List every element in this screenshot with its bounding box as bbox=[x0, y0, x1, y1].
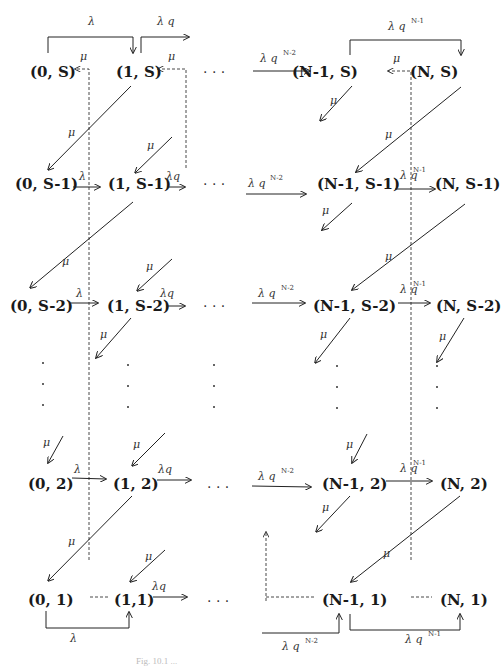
svg-text:μ: μ bbox=[168, 50, 175, 63]
edge-mu-12-01 bbox=[48, 496, 132, 581]
ellipsis-row-2: · · · bbox=[207, 479, 229, 495]
svg-text:μ: μ bbox=[68, 535, 75, 548]
svg-text:λ q: λ q bbox=[259, 52, 278, 65]
svg-text:μ: μ bbox=[146, 260, 153, 273]
svg-text:μ: μ bbox=[43, 436, 50, 449]
svg-text:μ: μ bbox=[147, 139, 154, 152]
svg-text:λq: λq bbox=[165, 170, 180, 183]
svg-text:N-2: N-2 bbox=[305, 637, 318, 645]
svg-text:μ: μ bbox=[322, 204, 329, 217]
svg-text:N-2: N-2 bbox=[281, 284, 294, 292]
svg-text:λ: λ bbox=[78, 170, 86, 183]
svg-text:N-1: N-1 bbox=[411, 17, 424, 25]
node-N-2: (N, 2) bbox=[440, 475, 488, 493]
node-0-S: (0, S) bbox=[30, 63, 76, 81]
svg-text:N-1: N-1 bbox=[428, 630, 441, 638]
state-transition-diagram: (0, S) (1, S) (N-1, S) (N, S) (0, S-1) (… bbox=[0, 0, 503, 668]
svg-text:μ: μ bbox=[100, 328, 107, 341]
svg-text:μ: μ bbox=[439, 330, 446, 343]
svg-text:μ: μ bbox=[385, 128, 392, 141]
node-N-1: (N, 1) bbox=[440, 591, 488, 609]
node-N-S: (N, S) bbox=[410, 63, 458, 81]
edge-mu-1S-0S1 bbox=[48, 86, 131, 170]
svg-text:μ: μ bbox=[346, 438, 353, 451]
svg-text:N-1: N-1 bbox=[413, 166, 426, 174]
svg-text:λ: λ bbox=[73, 463, 81, 476]
svg-text:μ: μ bbox=[133, 438, 140, 451]
svg-text:μ: μ bbox=[320, 328, 327, 341]
svg-text:λ q: λ q bbox=[247, 177, 266, 190]
svg-text:μ: μ bbox=[322, 501, 329, 514]
node-0-S-1: (0, S-1) bbox=[15, 175, 78, 193]
svg-text:μ: μ bbox=[385, 250, 392, 263]
svg-text:λ: λ bbox=[75, 287, 83, 300]
node-0-2: (0, 2) bbox=[28, 475, 74, 493]
node-N-1-2: (N-1, 2) bbox=[322, 475, 387, 493]
svg-text:μ: μ bbox=[68, 126, 75, 139]
svg-text:μ: μ bbox=[330, 94, 337, 107]
svg-text:λ: λ bbox=[87, 15, 95, 28]
ellipsis-row-S: · · · bbox=[203, 64, 225, 80]
edge-mu-NS-N1S1 bbox=[356, 87, 461, 172]
node-N-S-1: (N, S-1) bbox=[435, 175, 500, 193]
node-N-1-1: (N-1, 1) bbox=[322, 591, 387, 609]
svg-text:N-2: N-2 bbox=[281, 467, 294, 475]
node-N-1-S-2: (N-1, S-2) bbox=[313, 297, 396, 315]
svg-text:μ: μ bbox=[145, 550, 152, 563]
node-N-S-2: (N, S-2) bbox=[436, 297, 501, 315]
row-2-edges: μ μ λ λq λ q N-2 μ λ q N-1 μ bbox=[43, 433, 432, 601]
edge-mu-N2-N11 bbox=[351, 496, 460, 582]
vertical-dots bbox=[42, 362, 438, 409]
svg-text:N-2: N-2 bbox=[270, 174, 283, 182]
ellipsis-row-S-2: · · · bbox=[203, 298, 225, 314]
svg-text:N-2: N-2 bbox=[283, 49, 296, 57]
svg-text:λq: λq bbox=[159, 287, 174, 300]
svg-text:μ: μ bbox=[62, 255, 69, 268]
row-1-edges: μ λ λq λ q N-2 λ q N-1 bbox=[46, 550, 460, 653]
node-N-1-S: (N-1, S) bbox=[292, 63, 358, 81]
node-1-1: (1,1) bbox=[114, 591, 154, 609]
svg-text:λ q: λ q bbox=[156, 15, 175, 28]
node-1-S-1: (1, S-1) bbox=[108, 175, 171, 193]
svg-text:N-1: N-1 bbox=[413, 459, 426, 467]
node-0-S-2: (0, S-2) bbox=[10, 297, 73, 315]
svg-text:λq: λq bbox=[151, 580, 166, 593]
ellipsis-row-S-1: · · · bbox=[203, 176, 225, 192]
svg-text:λ: λ bbox=[69, 632, 77, 645]
ellipsis-row-1: · · · bbox=[207, 593, 229, 609]
svg-text:μ: μ bbox=[80, 50, 87, 63]
nodes: (0, S) (1, S) (N-1, S) (N, S) (0, S-1) (… bbox=[10, 63, 501, 609]
svg-text:λ q: λ q bbox=[257, 470, 276, 483]
svg-text:λ q: λ q bbox=[404, 633, 423, 646]
node-1-2: (1, 2) bbox=[113, 475, 159, 493]
svg-text:μ: μ bbox=[383, 547, 390, 560]
node-1-S: (1, S) bbox=[116, 63, 162, 81]
edge-mu-NS1-N1S2 bbox=[352, 204, 465, 290]
edge-mu-1S1-0S2 bbox=[30, 202, 133, 288]
ellipses: · · · · · · · · · · · · · · · bbox=[203, 64, 229, 609]
svg-text:λ q: λ q bbox=[257, 287, 276, 300]
svg-text:N-1: N-1 bbox=[413, 280, 426, 288]
svg-text:λq: λq bbox=[157, 463, 172, 476]
figure-caption: Fig. 10.1 ... bbox=[136, 656, 177, 666]
svg-text:λ q: λ q bbox=[281, 640, 300, 653]
node-N-1-S-1: (N-1, S-1) bbox=[317, 175, 400, 193]
svg-text:λ q: λ q bbox=[387, 20, 406, 33]
svg-text:μ: μ bbox=[393, 52, 400, 65]
node-0-1: (0, 1) bbox=[28, 591, 74, 609]
